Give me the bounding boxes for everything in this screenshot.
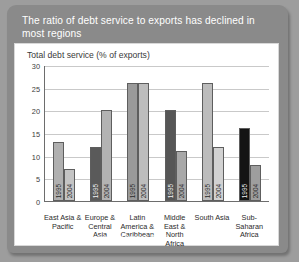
category-label: Sub-Saharan Africa [231,214,268,242]
bar-group: 19952004 [157,66,194,201]
bar-group: 19952004 [82,66,119,201]
bar-year-label: 1995 [92,184,99,198]
y-tick-label: 30 [32,62,40,71]
bar-year-label: 1995 [241,184,248,198]
bar-year-label: 2004 [66,184,73,198]
source-note: Source: Global Development Finance 2006 [22,233,167,242]
figure-title: The ratio of debt service to exports has… [22,14,275,40]
bar: 1995 [239,128,250,201]
category-label: South Asia [193,214,230,242]
bar: 2004 [64,169,75,201]
bar: 1995 [127,83,138,201]
chart-subtitle: Total debt service (% of exports) [27,50,150,60]
bar: 2004 [138,83,149,201]
bar-group: 19952004 [232,66,269,201]
bar: 2004 [176,151,187,201]
bar: 1995 [202,83,213,201]
bar-series: 1995200419952004199520041995200419952004… [45,66,269,201]
y-axis-labels: 051015202530 [25,66,42,202]
y-tick-label: 5 [36,175,40,184]
bar-year-label: 1995 [204,184,211,198]
bar-year-label: 1995 [55,184,62,198]
bar-group: 19952004 [194,66,231,201]
bar: 2004 [250,165,261,201]
bar-year-label: 2004 [140,184,147,198]
bar: 1995 [53,142,64,201]
plot-wrapper: 051015202530 199520041995200419952004199… [25,66,269,212]
bar: 2004 [101,110,112,201]
bar-year-label: 1995 [167,184,174,198]
bar: 1995 [165,110,176,201]
y-tick-label: 10 [32,152,40,161]
y-tick-label: 20 [32,107,40,116]
y-tick-label: 25 [32,84,40,93]
bar-group: 19952004 [120,66,157,201]
bar: 2004 [213,147,224,201]
bar-year-label: 2004 [103,184,110,198]
bar-year-label: 1995 [129,184,136,198]
bar-group: 19952004 [45,66,82,201]
bar-year-label: 2004 [252,184,259,198]
bar: 1995 [90,147,101,201]
bar-year-label: 2004 [215,184,222,198]
figure-header: The ratio of debt service to exports has… [7,5,288,47]
plot-area: 1995200419952004199520041995200419952004… [44,66,269,202]
y-tick-label: 15 [32,130,40,139]
figure-card: The ratio of debt service to exports has… [7,5,288,253]
bar-year-label: 2004 [178,184,185,198]
y-tick-label: 0 [36,198,40,207]
chart-panel: Total debt service (% of exports) 051015… [14,43,279,246]
